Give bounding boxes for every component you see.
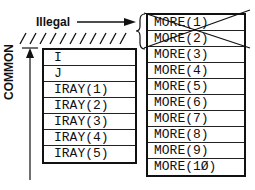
cross-out-mark (0, 0, 255, 190)
